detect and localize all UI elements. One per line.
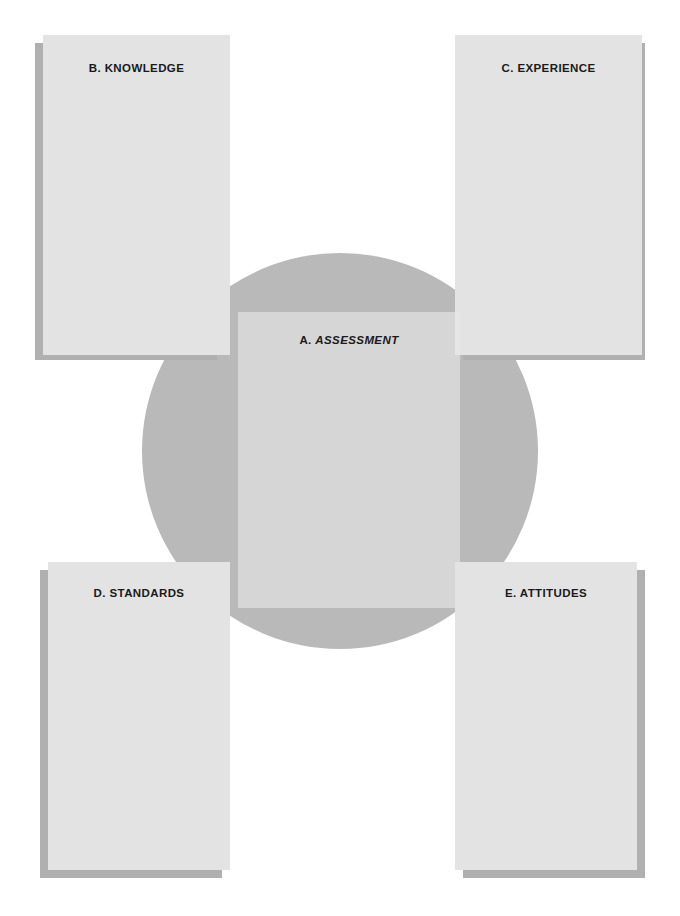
- assessment-diagram: B. KNOWLEDGE C. EXPERIENCE A. ASSESSMENT…: [0, 0, 680, 916]
- attitudes-card[interactable]: E. ATTITUDES: [455, 562, 637, 870]
- assessment-card-label: A. ASSESSMENT: [238, 334, 460, 346]
- attitudes-card-prefix: E.: [505, 587, 517, 599]
- attitudes-card-name: ATTITUDES: [520, 587, 587, 599]
- assessment-card-name: ASSESSMENT: [315, 334, 398, 346]
- attitudes-card-label: E. ATTITUDES: [455, 587, 637, 599]
- knowledge-card[interactable]: B. KNOWLEDGE: [43, 35, 230, 355]
- experience-card[interactable]: C. EXPERIENCE: [455, 35, 642, 355]
- standards-card-label: D. STANDARDS: [48, 587, 230, 599]
- knowledge-card-label: B. KNOWLEDGE: [43, 62, 230, 74]
- assessment-card[interactable]: A. ASSESSMENT: [238, 312, 460, 608]
- standards-card[interactable]: D. STANDARDS: [48, 562, 230, 870]
- assessment-card-prefix: A.: [299, 334, 311, 346]
- knowledge-card-name: KNOWLEDGE: [105, 62, 185, 74]
- experience-card-name: EXPERIENCE: [517, 62, 595, 74]
- standards-card-name: STANDARDS: [109, 587, 184, 599]
- experience-card-prefix: C.: [501, 62, 513, 74]
- experience-card-label: C. EXPERIENCE: [455, 62, 642, 74]
- standards-card-prefix: D.: [94, 587, 106, 599]
- knowledge-card-prefix: B.: [89, 62, 101, 74]
